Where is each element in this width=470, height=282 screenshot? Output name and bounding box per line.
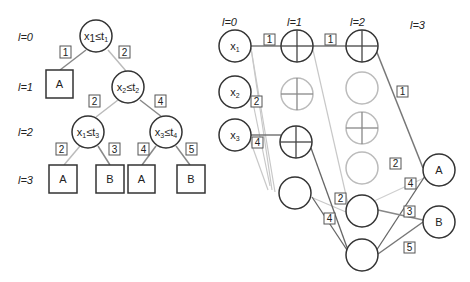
svg-text:1: 1 xyxy=(267,34,273,45)
svg-text:4: 4 xyxy=(158,96,164,107)
svg-text:5: 5 xyxy=(189,144,195,155)
input-node-x3: x3 xyxy=(219,119,251,151)
svg-text:1: 1 xyxy=(328,34,334,45)
svg-text:3: 3 xyxy=(112,144,118,155)
level-label-3: l=3 xyxy=(18,174,34,186)
tree-node-x1-t3: x1≤t3 xyxy=(72,116,104,148)
svg-text:2: 2 xyxy=(338,193,344,204)
svg-text:A: A xyxy=(435,164,443,176)
svg-text:4: 4 xyxy=(327,213,333,224)
level-label-2: l=2 xyxy=(18,126,33,138)
svg-text:A: A xyxy=(59,173,67,185)
input-node-x2: x2 xyxy=(219,76,251,108)
svg-text:A: A xyxy=(56,78,64,90)
tree-edge xyxy=(98,146,110,165)
svg-text:5: 5 xyxy=(407,242,413,253)
svg-text:3: 3 xyxy=(407,206,413,217)
svg-text:4: 4 xyxy=(141,144,147,155)
hidden-node-l2-empty xyxy=(346,195,378,227)
svg-text:2: 2 xyxy=(254,96,260,107)
net-level-label-1: l=1 xyxy=(287,16,302,28)
tree-leaf-A: A xyxy=(128,165,155,193)
input-node-x1: x1 xyxy=(219,30,251,62)
output-node-B: B xyxy=(423,206,455,238)
level-label-0: l=0 xyxy=(18,31,34,43)
net-level-label-0: l=0 xyxy=(222,16,238,28)
svg-text:2: 2 xyxy=(393,158,399,169)
hidden-node-l1-empty xyxy=(279,177,311,209)
tree-leaf-B: B xyxy=(177,165,205,193)
svg-text:2: 2 xyxy=(122,47,128,58)
tree-leaf-B: B xyxy=(96,165,124,193)
svg-text:B: B xyxy=(106,173,113,185)
svg-text:1: 1 xyxy=(400,86,406,97)
diagram-canvas: l=0 l=1 l=2 l=3 x1≤t1 A x2≤t2 x1≤t xyxy=(0,0,470,282)
svg-text:B: B xyxy=(187,173,194,185)
hidden-node-l1-cross xyxy=(281,30,313,62)
tree-node-x3-t4: x3≤t4 xyxy=(150,116,182,148)
network-edge-labels: 1 1 1 2 4 2 4 2 4 3 5 xyxy=(251,34,416,253)
hidden-node-l1-cross xyxy=(280,126,312,158)
tree-node-root: x1≤t1 xyxy=(80,20,112,52)
svg-text:4: 4 xyxy=(408,178,414,189)
output-node-A: A xyxy=(423,154,455,186)
decision-tree: l=0 l=1 l=2 l=3 x1≤t1 A x2≤t2 x1≤t xyxy=(18,20,205,193)
hidden-node-l2-empty xyxy=(346,239,378,271)
svg-text:2: 2 xyxy=(59,144,65,155)
tree-leaf-A: A xyxy=(46,70,73,98)
svg-text:A: A xyxy=(138,173,146,185)
tree-node-x2: x2≤t2 xyxy=(112,71,144,103)
svg-text:B: B xyxy=(435,216,442,228)
level-label-1: l=1 xyxy=(18,81,33,93)
svg-text:4: 4 xyxy=(255,137,261,148)
net-level-label-3: l=3 xyxy=(410,19,426,31)
hidden-node-l2-cross-inactive xyxy=(346,112,378,144)
network-diagram: l=0 l=1 l=2 l=3 x1 xyxy=(219,16,455,271)
tree-leaf-A: A xyxy=(49,165,77,193)
hidden-node-l1-cross-inactive xyxy=(281,78,313,110)
svg-text:1: 1 xyxy=(63,47,69,58)
svg-text:2: 2 xyxy=(92,96,98,107)
hidden-node-l2-empty-inactive xyxy=(346,72,378,104)
network-edges xyxy=(250,46,425,254)
net-level-label-2: l=2 xyxy=(350,16,365,28)
hidden-node-l2-cross xyxy=(346,30,378,62)
hidden-node-l2-empty-inactive xyxy=(346,152,378,184)
